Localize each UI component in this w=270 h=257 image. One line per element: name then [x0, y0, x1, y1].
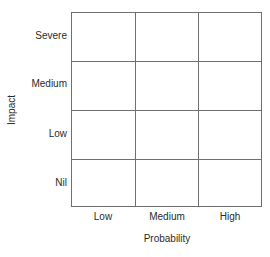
matrix-cell-severe-low — [72, 13, 135, 61]
y-tick-label-severe: Severe — [1, 30, 67, 42]
matrix-cell-nil-high — [198, 159, 261, 206]
y-tick-label-low: Low — [1, 128, 67, 140]
x-axis-title: Probability — [107, 233, 227, 245]
matrix-cell-nil-low — [72, 159, 135, 206]
grid-line-vertical-1 — [135, 13, 136, 206]
grid-line-horizontal-2 — [72, 110, 261, 111]
matrix-cell-low-low — [72, 110, 135, 159]
y-tick-label-nil: Nil — [1, 177, 67, 189]
grid-line-horizontal-1 — [72, 61, 261, 62]
matrix-cell-medium-medium — [135, 61, 198, 110]
x-tick-label-low: Low — [71, 211, 135, 223]
matrix-cell-low-high — [198, 110, 261, 159]
matrix-cell-low-medium — [135, 110, 198, 159]
grid-line-horizontal-3 — [72, 159, 261, 160]
matrix-cell-nil-medium — [135, 159, 198, 206]
y-tick-label-medium: Medium — [1, 78, 67, 90]
x-tick-label-medium: Medium — [135, 211, 199, 223]
x-tick-label-high: High — [198, 211, 262, 223]
matrix-cell-severe-medium — [135, 13, 198, 61]
matrix-cell-severe-high — [198, 13, 261, 61]
grid-line-vertical-2 — [198, 13, 199, 206]
risk-matrix-figure: Impact Severe Medium Low Nil Low Medium … — [0, 0, 270, 257]
matrix-grid — [71, 12, 262, 207]
matrix-cell-medium-low — [72, 61, 135, 110]
matrix-cell-medium-high — [198, 61, 261, 110]
